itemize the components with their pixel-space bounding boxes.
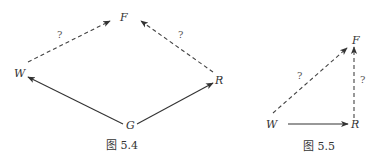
diagram-canvas: F W R G ? ? 图 5.4 F W R ? ? 图 5.5 [0,0,380,160]
label-wf-question: ? [57,29,62,40]
edge-g-to-r [137,83,213,124]
edge-g-to-w [28,77,123,124]
node-f: F [351,34,360,47]
edge-w-to-f-dashed [28,21,110,62]
node-f: F [119,11,128,24]
label-wf-question: ? [297,70,302,81]
node-r: R [350,118,359,131]
label-rf-question: ? [360,74,365,85]
figure-5-5: F W R ? ? 图 5.5 [266,34,365,153]
caption-figure-5-4: 图 5.4 [106,139,138,152]
node-r: R [214,74,223,87]
label-rf-question: ? [178,29,183,40]
edge-w-to-f-dashed [273,48,347,113]
node-w: W [14,67,27,80]
caption-figure-5-5: 图 5.5 [303,140,335,153]
node-w: W [266,118,279,131]
node-g: G [126,119,135,132]
figure-5-4: F W R G ? ? 图 5.4 [14,11,223,152]
edge-r-to-f-dashed [141,21,213,72]
